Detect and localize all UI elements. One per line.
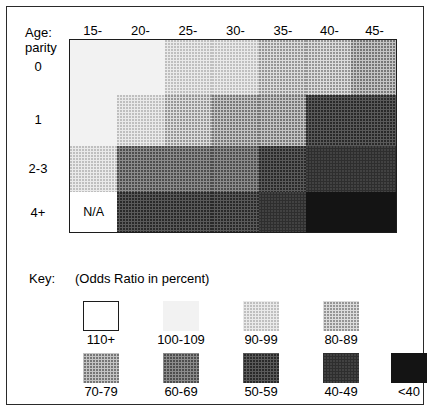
heatmap-cell (259, 146, 306, 192)
heatmap-cell (70, 95, 117, 146)
legend-swatch (323, 353, 359, 383)
heatmap-cell (306, 146, 351, 192)
legend-swatch (83, 301, 119, 331)
heatmap-cell (259, 192, 306, 232)
legend-item: 50-59 (229, 353, 293, 399)
legend-item: 90-99 (229, 301, 293, 347)
heatmap-row (70, 40, 396, 95)
legend-swatch (323, 301, 359, 331)
row-label-4: 4+ (15, 205, 61, 220)
heatmap-cell (212, 95, 259, 146)
legend-swatch (83, 353, 119, 383)
legend-swatch (243, 301, 279, 331)
heatmap-cell (165, 192, 212, 232)
legend-swatch-label: 50-59 (229, 384, 293, 399)
column-header-40: 40- (308, 23, 350, 38)
heatmap-cell (212, 40, 259, 95)
heatmap-cell (351, 146, 396, 192)
legend-item: 40-49 (309, 353, 373, 399)
legend-swatch-label: <40 (377, 384, 440, 399)
heatmap-row (70, 95, 396, 146)
heatmap-cell (212, 146, 259, 192)
heatmap-cell (351, 95, 396, 146)
legend-swatch (391, 353, 427, 383)
column-header-45: 45- (354, 23, 396, 38)
column-header-25: 25- (167, 23, 209, 38)
heatmap-cell (117, 95, 164, 146)
heatmap-cell (306, 192, 351, 232)
legend-item: 60-69 (149, 353, 213, 399)
heatmap-cell (212, 192, 259, 232)
heatmap-cell (306, 40, 351, 95)
row-label-0: 0 (15, 59, 61, 74)
column-header-15: 15- (72, 23, 114, 38)
legend-item: 110+ (69, 301, 133, 347)
heatmap-cell (259, 40, 306, 95)
legend-swatch (163, 353, 199, 383)
legend-swatch (243, 353, 279, 383)
legend-item: 80-89 (309, 301, 373, 347)
legend-swatch-label: 90-99 (229, 332, 293, 347)
legend-swatch-label: 100-109 (149, 332, 213, 347)
heatmap-cell (259, 95, 306, 146)
heatmap-cell (117, 146, 164, 192)
legend-item: 70-79 (69, 353, 133, 399)
heatmap-cell (165, 40, 212, 95)
heatmap-row: N/A (70, 192, 396, 232)
column-header-35: 35- (262, 23, 304, 38)
heatmap-cell (70, 146, 117, 192)
heatmap-grid: N/A (69, 39, 397, 233)
legend-swatch (163, 301, 199, 331)
legend-swatch-label: 60-69 (149, 384, 213, 399)
heatmap-cell (117, 40, 164, 95)
row-label-1: 1 (15, 112, 61, 127)
legend-swatch-label: 70-79 (69, 384, 133, 399)
heatmap-cell (306, 95, 351, 146)
heatmap-cell (351, 192, 396, 232)
heatmap-cell (70, 40, 117, 95)
legend-item: <40 (377, 353, 440, 399)
heatmap-cell (165, 95, 212, 146)
column-header-30: 30- (214, 23, 256, 38)
heatmap-row (70, 146, 396, 192)
legend: Key: (Odds Ratio in percent) 110+100-109… (7, 253, 425, 405)
legend-item: 100-109 (149, 301, 213, 347)
heatmap-cell (117, 192, 164, 232)
heatmap-cell (351, 40, 396, 95)
heatmap-panel: Age: parity 15-20-25-30-35-40-45- 012-34… (7, 7, 425, 247)
legend-swatch-label: 110+ (69, 332, 133, 347)
legend-swatch-label: 40-49 (309, 384, 373, 399)
legend-swatch-label: 80-89 (309, 332, 373, 347)
row-label-23: 2-3 (15, 161, 61, 176)
heatmap-cell-na-label: N/A (70, 192, 117, 232)
legend-title: Key: (29, 271, 55, 286)
heatmap-cell (165, 146, 212, 192)
figure-frame: Age: parity 15-20-25-30-35-40-45- 012-34… (6, 6, 424, 405)
column-header-20: 20- (119, 23, 161, 38)
heatmap-cell: N/A (70, 192, 117, 232)
legend-subtitle: (Odds Ratio in percent) (75, 271, 209, 286)
